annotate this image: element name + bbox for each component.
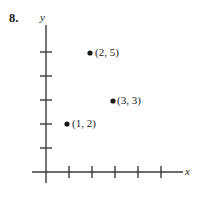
data-point-marker — [87, 50, 92, 55]
y-axis-label: y — [40, 11, 45, 23]
x-axis-label: x — [185, 165, 190, 177]
data-point-marker — [64, 121, 69, 126]
data-point-markers — [64, 50, 115, 126]
coordinate-plane-svg — [0, 0, 203, 197]
data-point-label: (3, 3) — [117, 94, 141, 106]
data-point-marker — [110, 98, 115, 103]
data-point-label: (2, 5) — [95, 46, 119, 58]
data-point-label: (1, 2) — [72, 117, 96, 129]
scatter-plot-figure: 8. y x (2, 5) (3, 3) — [0, 0, 203, 197]
